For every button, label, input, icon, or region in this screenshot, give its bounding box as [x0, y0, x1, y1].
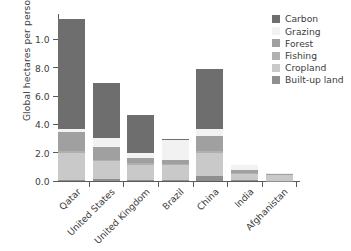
legend-item-grazing[interactable]: Grazing — [272, 25, 351, 37]
legend-label: Grazing — [285, 27, 321, 36]
y-axis-title: Global hectares per person — [21, 0, 32, 138]
bar-segment-carbon — [196, 69, 223, 130]
bar-china[interactable] — [196, 69, 223, 181]
legend-swatch-icon — [272, 15, 280, 23]
legend-item-carbon[interactable]: Carbon — [272, 13, 351, 25]
stacked-bar-chart: Global hectares per person 0.02.04.06.08… — [0, 0, 351, 251]
bar-united-states[interactable] — [93, 83, 120, 181]
legend-swatch-icon — [272, 39, 280, 47]
bar-segment-grazing — [93, 138, 120, 147]
bar-qatar[interactable] — [58, 19, 85, 181]
bar-segment-cropland — [58, 153, 85, 180]
legend-swatch-icon — [272, 64, 280, 72]
x-axis-label-afghanistan: Afghanistan — [282, 147, 328, 193]
y-axis-tick-label: 8.0 — [35, 62, 50, 73]
bar-segment-forest — [58, 132, 85, 151]
legend-label: Built-up land — [285, 75, 344, 84]
bar-segment-forest — [93, 147, 120, 160]
y-axis-tick-label: 2.0 — [35, 147, 50, 158]
legend-item-forest[interactable]: Forest — [272, 37, 351, 49]
legend-item-cropland[interactable]: Cropland — [272, 62, 351, 74]
legend-item-built-up-land[interactable]: Built-up land — [272, 74, 351, 86]
legend-label: Carbon — [285, 14, 318, 23]
bar-segment-carbon — [93, 83, 120, 138]
y-axis-tick-label: 0.0 — [35, 176, 50, 187]
plot-area — [58, 14, 264, 181]
legend-label: Cropland — [285, 63, 326, 72]
legend-item-fishing[interactable]: Fishing — [272, 50, 351, 62]
legend-swatch-icon — [272, 27, 280, 35]
y-axis-tick-label: 1.0 — [35, 34, 50, 45]
legend-label: Forest — [285, 39, 313, 48]
y-axis-tick-label: 4.0 — [35, 119, 50, 130]
bar-segment-carbon — [58, 19, 85, 129]
legend-swatch-icon — [272, 76, 280, 84]
chart-legend: CarbonGrazingForestFishingCroplandBuilt-… — [272, 13, 351, 86]
y-axis-tick-label: 6.0 — [35, 91, 50, 102]
legend-swatch-icon — [272, 52, 280, 60]
legend-label: Fishing — [285, 51, 317, 60]
